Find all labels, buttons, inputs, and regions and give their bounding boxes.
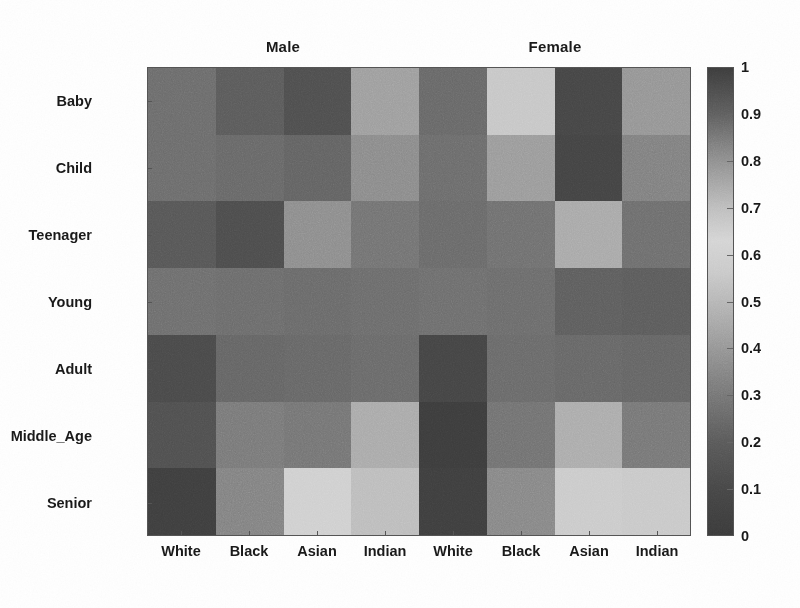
- heatmap-cell: [216, 402, 284, 469]
- heatmap-cell: [351, 268, 419, 335]
- heatmap-figure: MaleFemale BabyChildTeenagerYoungAdultMi…: [0, 0, 800, 608]
- x-tick-mark: [385, 531, 386, 536]
- colorbar-tick-mark: [727, 208, 733, 209]
- heatmap-cell: [622, 268, 690, 335]
- heatmap-cell: [284, 135, 352, 202]
- colorbar-tick-mark: [727, 395, 733, 396]
- x-tick-mark: [249, 531, 250, 536]
- heatmap-cell: [148, 402, 216, 469]
- colorbar-tick-label: 1: [741, 59, 749, 75]
- heatmap-cell: [555, 268, 623, 335]
- heatmap-cell: [555, 335, 623, 402]
- col-label-female-indian: Indian: [636, 543, 679, 559]
- row-label-child: Child: [56, 160, 92, 176]
- heatmap-cell: [487, 68, 555, 135]
- heatmap-cell: [148, 201, 216, 268]
- row-label-adult: Adult: [55, 361, 92, 377]
- heatmap-cell: [487, 201, 555, 268]
- heatmap-cell: [555, 68, 623, 135]
- heatmap-cell: [351, 335, 419, 402]
- heatmap-cell: [216, 135, 284, 202]
- col-label-male-white: White: [161, 543, 200, 559]
- colorbar-tick-mark: [727, 348, 733, 349]
- row-label-baby: Baby: [57, 93, 92, 109]
- heatmap-cell: [216, 68, 284, 135]
- y-tick-mark: [147, 235, 152, 236]
- heatmap-cell: [351, 402, 419, 469]
- heatmap-cell: [216, 268, 284, 335]
- heatmap-cell: [284, 335, 352, 402]
- heatmap-cell: [216, 468, 284, 535]
- colorbar-tick-label: 0.9: [741, 106, 761, 122]
- col-label-male-black: Black: [230, 543, 269, 559]
- heatmap-cell: [148, 335, 216, 402]
- y-tick-mark: [147, 436, 152, 437]
- row-label-teenager: Teenager: [29, 227, 92, 243]
- heatmap-cell: [148, 468, 216, 535]
- colorbar-tick-mark: [727, 302, 733, 303]
- heatmap-cell: [419, 468, 487, 535]
- heatmap-cell: [487, 268, 555, 335]
- heatmap-cell: [148, 68, 216, 135]
- heatmap-cell: [284, 402, 352, 469]
- heatmap-plot-area: [147, 67, 691, 536]
- x-tick-mark: [521, 531, 522, 536]
- heatmap-cell: [419, 268, 487, 335]
- colorbar-tick-mark: [727, 442, 733, 443]
- heatmap-cell: [555, 402, 623, 469]
- heatmap-cell: [419, 335, 487, 402]
- y-tick-mark: [147, 101, 152, 102]
- heatmap-cell: [148, 135, 216, 202]
- heatmap-cell: [351, 135, 419, 202]
- heatmap-cell: [351, 201, 419, 268]
- row-label-senior: Senior: [47, 495, 92, 511]
- heatmap-cell: [284, 468, 352, 535]
- col-label-male-indian: Indian: [364, 543, 407, 559]
- heatmap-cell: [622, 201, 690, 268]
- heatmap-cell: [419, 402, 487, 469]
- heatmap-cell: [284, 68, 352, 135]
- col-label-female-white: White: [433, 543, 472, 559]
- colorbar-tick-mark: [727, 255, 733, 256]
- colorbar-tick-label: 0.6: [741, 247, 761, 263]
- heatmap-cell: [487, 335, 555, 402]
- colorbar-tick-label: 0: [741, 528, 749, 544]
- colorbar-tick-label: 0.3: [741, 387, 761, 403]
- x-tick-mark: [181, 531, 182, 536]
- y-tick-mark: [147, 168, 152, 169]
- heatmap-cell: [419, 135, 487, 202]
- x-tick-mark: [589, 531, 590, 536]
- col-label-female-black: Black: [502, 543, 541, 559]
- colorbar-tick-mark: [727, 489, 733, 490]
- x-tick-mark: [317, 531, 318, 536]
- heatmap-cell: [487, 402, 555, 469]
- col-label-female-asian: Asian: [569, 543, 609, 559]
- heatmap-cell: [622, 335, 690, 402]
- colorbar-tick-label: 0.2: [741, 434, 761, 450]
- heatmap-cell: [419, 201, 487, 268]
- y-tick-mark: [147, 369, 152, 370]
- heatmap-cell: [284, 201, 352, 268]
- heatmap-cell: [216, 201, 284, 268]
- heatmap-cell: [555, 201, 623, 268]
- heatmap-cell: [622, 135, 690, 202]
- row-label-young: Young: [48, 294, 92, 310]
- heatmap-cell: [622, 402, 690, 469]
- heatmap-cell: [419, 68, 487, 135]
- colorbar-tick-label: 0.7: [741, 200, 761, 216]
- y-tick-mark: [147, 503, 152, 504]
- colorbar-tick-label: 0.1: [741, 481, 761, 497]
- heatmap-cell: [351, 468, 419, 535]
- colorbar-tick-mark: [727, 161, 733, 162]
- heatmap-cell: [284, 268, 352, 335]
- colorbar-tick-mark: [727, 114, 733, 115]
- y-tick-mark: [147, 302, 152, 303]
- colorbar-tick-label: 0.8: [741, 153, 761, 169]
- heatmap-cell: [487, 468, 555, 535]
- heatmap-cell: [351, 68, 419, 135]
- heatmap-cell: [216, 335, 284, 402]
- heatmap-cell-grid: [148, 68, 690, 535]
- group-header-female: Female: [495, 38, 615, 55]
- heatmap-cell: [487, 135, 555, 202]
- heatmap-cell: [148, 268, 216, 335]
